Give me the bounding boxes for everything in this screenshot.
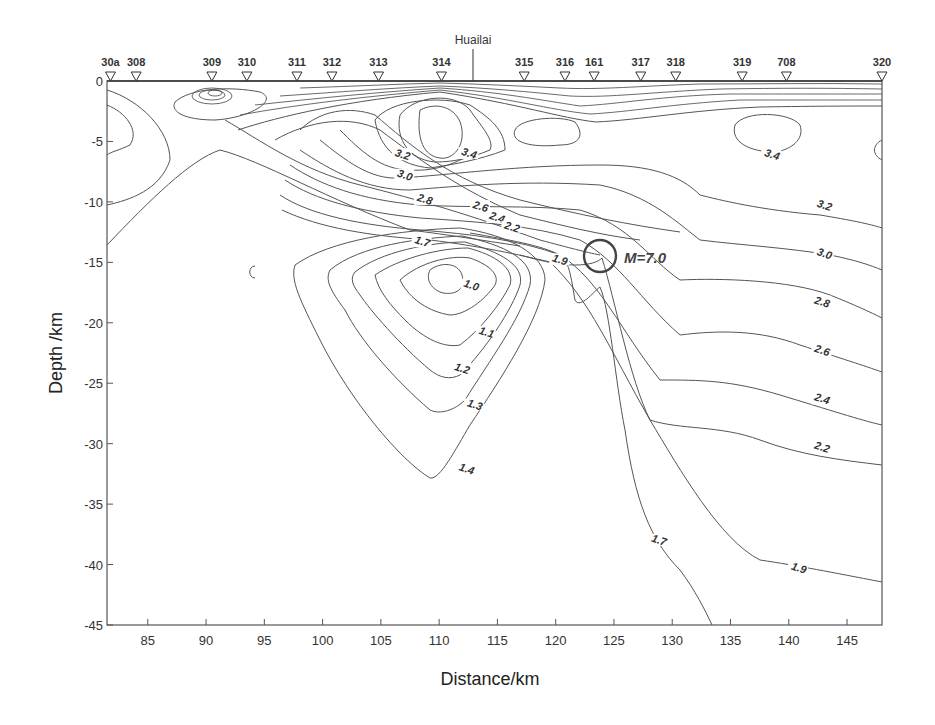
x-axis-title: Distance/km bbox=[440, 669, 539, 689]
station-triangle-icon bbox=[636, 72, 646, 81]
station-triangle-icon bbox=[877, 72, 887, 81]
station-markers: 30a3083093103113123133143153161613173183… bbox=[101, 56, 891, 81]
x-tick-label: 125 bbox=[603, 633, 625, 648]
y-tick-label: -35 bbox=[84, 497, 103, 512]
station-triangle-icon bbox=[737, 72, 747, 81]
x-tick-label: 110 bbox=[429, 633, 450, 648]
station-label: 310 bbox=[238, 56, 256, 68]
contour-labels: 3.43.23.02.82.62.42.21.71.91.01.11.21.31… bbox=[392, 145, 835, 576]
station-triangle-icon bbox=[131, 72, 141, 81]
y-tick-label: -30 bbox=[84, 437, 103, 452]
y-axis-title: Depth /km bbox=[46, 312, 66, 394]
station-triangle-icon bbox=[242, 72, 252, 81]
x-tick-label: 100 bbox=[312, 633, 334, 648]
station-triangle-icon bbox=[781, 72, 791, 81]
station-triangle-icon bbox=[436, 72, 446, 81]
y-tick-label: 0 bbox=[96, 74, 103, 89]
station-label: 312 bbox=[323, 56, 341, 68]
y-tick-label: -10 bbox=[84, 195, 103, 210]
station-triangle-icon bbox=[327, 72, 337, 81]
station-label: 318 bbox=[667, 56, 685, 68]
station-label: 315 bbox=[515, 56, 533, 68]
x-tick-label: 130 bbox=[661, 633, 683, 648]
x-tick-label: 105 bbox=[370, 633, 392, 648]
earthquake-magnitude-label: M=7.0 bbox=[624, 249, 667, 266]
station-triangle-icon bbox=[589, 72, 599, 81]
x-tick-label: 145 bbox=[836, 633, 858, 648]
station-triangle-icon bbox=[105, 72, 115, 81]
station-label: 161 bbox=[585, 56, 603, 68]
x-tick-label: 140 bbox=[778, 633, 800, 648]
station-triangle-icon bbox=[292, 72, 302, 81]
y-tick-label: -45 bbox=[84, 618, 103, 633]
station-label: 308 bbox=[127, 56, 145, 68]
x-tick-label: 90 bbox=[199, 633, 213, 648]
station-label: 319 bbox=[733, 56, 751, 68]
velocity-contour-chart: 859095100105110115120125130135140145 0-5… bbox=[0, 0, 935, 725]
station-triangle-icon bbox=[374, 72, 384, 81]
station-label: 708 bbox=[777, 56, 795, 68]
station-triangle-icon bbox=[671, 72, 681, 81]
x-axis-ticks: 859095100105110115120125130135140145 bbox=[141, 619, 858, 648]
y-axis-ticks: 0-5-10-15-20-25-30-35-40-45 bbox=[84, 74, 113, 633]
station-label: 316 bbox=[556, 56, 574, 68]
x-tick-label: 120 bbox=[545, 633, 567, 648]
y-tick-label: -40 bbox=[84, 558, 103, 573]
station-label: 30a bbox=[101, 56, 120, 68]
x-tick-label: 85 bbox=[141, 633, 155, 648]
station-label: 320 bbox=[873, 56, 891, 68]
y-tick-label: -5 bbox=[91, 134, 103, 149]
y-tick-label: -25 bbox=[84, 376, 103, 391]
plot-frame bbox=[107, 81, 882, 625]
x-tick-label: 135 bbox=[720, 633, 742, 648]
station-label: 313 bbox=[369, 56, 387, 68]
station-triangle-icon bbox=[560, 72, 570, 81]
station-triangle-icon bbox=[519, 72, 529, 81]
y-tick-label: -15 bbox=[84, 255, 103, 270]
station-label: 314 bbox=[432, 56, 451, 68]
station-triangle-icon bbox=[207, 72, 217, 81]
huailai-label: Huailai bbox=[455, 33, 492, 47]
contour-lines bbox=[107, 83, 882, 625]
station-label: 317 bbox=[632, 56, 650, 68]
x-tick-label: 95 bbox=[257, 633, 271, 648]
station-label: 311 bbox=[288, 56, 306, 68]
station-label: 309 bbox=[203, 56, 221, 68]
x-tick-label: 115 bbox=[487, 633, 508, 648]
y-tick-label: -20 bbox=[84, 316, 103, 331]
earthquake-epicenter-marker bbox=[584, 240, 616, 272]
